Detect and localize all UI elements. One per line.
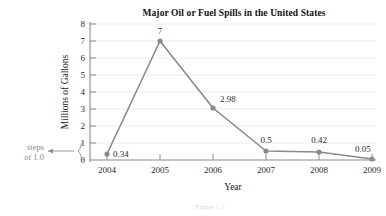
data-point-2008[interactable]: [316, 149, 321, 154]
y-tick-label-1: 1: [81, 138, 86, 148]
data-point-2004[interactable]: [104, 151, 109, 156]
figure-caption: Figure 1.5: [150, 203, 270, 211]
x-tick-label-2009: 2009: [363, 165, 382, 175]
data-point-2007[interactable]: [263, 148, 268, 153]
y-axis-ticks: [90, 24, 96, 143]
x-tick-label-2006: 2006: [204, 165, 223, 175]
data-label-2004: 0.34: [113, 149, 129, 159]
y-tick-label-7: 7: [81, 36, 86, 46]
data-point-2005[interactable]: [157, 38, 162, 43]
y-tick-label-3: 3: [81, 104, 86, 114]
data-label-2005: 7: [158, 26, 163, 36]
data-point-2009[interactable]: [369, 156, 374, 161]
x-tick-label-2004: 2004: [98, 165, 117, 175]
y-tick-label-5: 5: [81, 70, 86, 80]
y-tick-label-2: 2: [81, 121, 86, 131]
y-axis-tick-labels: 8 7 6 5 4 3 2 1 0: [81, 19, 86, 165]
y-axis-title: Millions of Gallons: [60, 54, 70, 129]
x-axis-tick-labels: 2004 2005 2006 2007 2008 2009: [98, 165, 382, 175]
x-tick-label-2007: 2007: [257, 165, 276, 175]
data-point-2006[interactable]: [210, 105, 215, 110]
data-label-2006: 2.98: [220, 94, 236, 104]
annotation-line-1: steps: [27, 142, 44, 152]
x-axis-title: Year: [224, 182, 242, 192]
figure-container: Major Oil or Fuel Spills in the United S…: [0, 0, 386, 216]
data-label-2009: 0.05: [355, 144, 371, 154]
chart-canvas: 8 7 6 5 4 3 2 1 0 2004 2005 2006 2007 20…: [0, 0, 386, 216]
data-label-2008: 0.42: [311, 135, 327, 145]
data-line-series: [107, 41, 372, 159]
steps-annotation-group: steps of 1.0: [24, 142, 84, 162]
x-axis-ticks: [107, 154, 372, 160]
annotation-line-2: of 1.0: [24, 152, 44, 162]
y-tick-label-4: 4: [81, 87, 86, 97]
x-tick-label-2008: 2008: [310, 165, 329, 175]
data-label-2007: 0.5: [260, 135, 272, 145]
y-tick-label-6: 6: [81, 53, 86, 63]
arrow-left-icon: [48, 149, 53, 154]
y-tick-label-8: 8: [81, 19, 86, 29]
x-tick-label-2005: 2005: [151, 165, 170, 175]
